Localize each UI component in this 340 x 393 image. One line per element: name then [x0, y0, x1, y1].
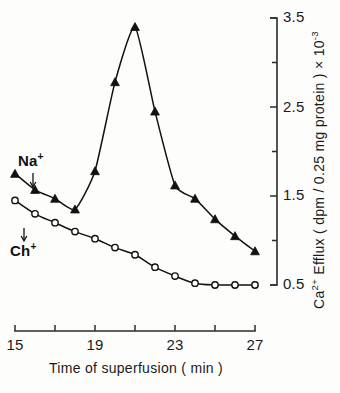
data-point-Na-23 — [171, 181, 180, 189]
data-point-Na-15 — [11, 169, 20, 177]
data-point-Ch-15 — [12, 197, 18, 203]
data-point-Ch-17 — [52, 220, 58, 226]
data-point-Na-24 — [191, 194, 200, 202]
data-point-Ch-23 — [172, 273, 178, 279]
data-point-Na-19 — [91, 167, 100, 175]
series-label-ch: Ch+ — [10, 242, 37, 259]
x-axis-ticks — [15, 325, 255, 331]
data-point-Na-21 — [131, 23, 140, 31]
y-axis-title: Ca2+ Efflux ( dpm / 0.25 mg protein ) × … — [299, 0, 339, 340]
data-point-Ch-24 — [192, 280, 198, 286]
data-point-Ch-18 — [72, 228, 78, 234]
figure-container: Na+ Ch+ 3.5 2.5 1.5 0.5 15 19 23 27 Time… — [0, 0, 340, 393]
series-ch-line — [15, 200, 255, 285]
data-point-Ch-20 — [112, 244, 118, 250]
x-axis-title: Time of superfusion ( min ) — [0, 360, 272, 376]
data-point-Na-17 — [51, 194, 60, 202]
data-point-Ch-16 — [32, 211, 38, 217]
na-superscript: + — [38, 151, 44, 162]
series-na-line — [15, 27, 255, 251]
y-axis-title-middle: Efflux ( dpm / 0.25 mg protein ) × 10 — [311, 40, 327, 279]
y-axis-title-prefix: Ca — [311, 290, 327, 309]
series-ch-markers — [12, 197, 258, 288]
data-point-Ch-27 — [252, 282, 258, 288]
data-point-Na-16 — [31, 185, 40, 193]
data-point-Ch-26 — [232, 282, 238, 288]
y-axis-ticks — [270, 18, 277, 285]
x-tick-label-15: 15 — [0, 336, 35, 353]
data-point-Ch-25 — [212, 282, 218, 288]
ch-superscript: + — [30, 241, 36, 252]
data-point-Ch-22 — [152, 264, 158, 270]
y-axis-title-exponent: -3 — [309, 31, 320, 40]
data-point-Na-22 — [151, 107, 160, 115]
data-point-Na-20 — [111, 78, 120, 86]
data-point-Ch-21 — [132, 252, 138, 258]
data-point-Ch-19 — [92, 236, 98, 242]
series-label-na: Na+ — [18, 152, 44, 169]
y-axis-title-prefix-sup: 2+ — [309, 279, 320, 290]
x-tick-label-27: 27 — [235, 336, 275, 353]
x-tick-label-19: 19 — [75, 336, 115, 353]
x-tick-label-23: 23 — [155, 336, 195, 353]
